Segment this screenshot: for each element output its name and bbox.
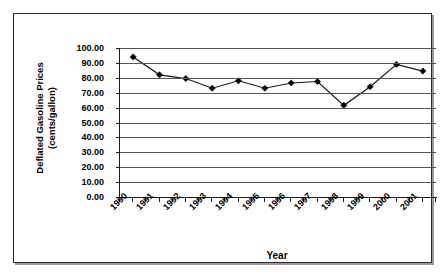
x-axis-tick-mark <box>369 197 370 202</box>
gridline <box>120 48 436 49</box>
x-axis-tick-labels: 1990199119921993199419951996199719981999… <box>14 203 446 248</box>
x-axis-tick-mark <box>211 197 212 202</box>
x-axis-tick-mark <box>264 197 265 202</box>
y-axis-tick-label: 80.00 <box>56 73 104 83</box>
chart-frame: Deflated Gasoline Prices (cents/gallon) … <box>13 13 432 263</box>
series-line <box>133 57 423 105</box>
y-axis-tick-mark <box>116 48 120 49</box>
x-axis-tick-mark <box>343 197 344 202</box>
x-axis-tick-mark <box>435 197 436 202</box>
x-axis-tick-mark <box>238 197 239 202</box>
x-axis-tick-mark <box>422 197 423 202</box>
x-axis-tick-mark <box>290 197 291 202</box>
gridline <box>120 63 436 64</box>
y-axis-tick-mark <box>116 78 120 79</box>
y-axis-tick-mark <box>116 93 120 94</box>
y-axis-tick-label: 50.00 <box>56 118 104 128</box>
gridline <box>120 108 436 109</box>
y-axis-tick-mark <box>116 63 120 64</box>
gridline <box>120 123 436 124</box>
gridline <box>120 167 436 168</box>
y-axis-tick-mark <box>116 167 120 168</box>
y-axis-tick-mark <box>116 123 120 124</box>
y-axis-tick-mark <box>116 182 120 183</box>
data-point-marker <box>209 85 215 91</box>
y-axis-tick-labels: 0.0010.0020.0030.0040.0050.0060.0070.008… <box>56 35 104 198</box>
y-axis-tick-label: 60.00 <box>56 103 104 113</box>
gridline <box>120 93 436 94</box>
y-axis-title: Deflated Gasoline Prices (cents/gallon) <box>34 38 58 198</box>
y-axis-tick-mark <box>116 137 120 138</box>
data-point-marker <box>420 68 426 74</box>
plot-area <box>119 48 436 197</box>
y-axis-tick-label: 10.00 <box>56 177 104 187</box>
y-axis-tick-label: 40.00 <box>56 132 104 142</box>
chart-figure: Deflated Gasoline Prices (cents/gallon) … <box>0 0 446 276</box>
x-axis-tick-mark <box>396 197 397 202</box>
x-axis-tick-mark <box>317 197 318 202</box>
gridline <box>120 78 436 79</box>
gridline <box>120 182 436 183</box>
y-axis-tick-mark <box>116 152 120 153</box>
x-axis-tick-mark <box>159 197 160 202</box>
y-axis-tick-label: 70.00 <box>56 88 104 98</box>
y-axis-tick-mark <box>116 108 120 109</box>
data-point-marker <box>288 80 294 86</box>
x-axis-tick-mark <box>132 197 133 202</box>
y-axis-tick-label: 30.00 <box>56 147 104 157</box>
x-axis-tick-mark <box>185 197 186 202</box>
y-axis-tick-label: 0.00 <box>56 192 104 202</box>
data-point-marker <box>262 85 268 91</box>
gridline <box>120 152 436 153</box>
x-axis-title: Year <box>119 250 435 261</box>
y-axis-title-line-1: Deflated Gasoline Prices <box>34 38 46 198</box>
y-axis-tick-label: 100.00 <box>56 43 104 53</box>
y-axis-tick-label: 20.00 <box>56 162 104 172</box>
gridline <box>120 137 436 138</box>
y-axis-tick-label: 90.00 <box>56 58 104 68</box>
